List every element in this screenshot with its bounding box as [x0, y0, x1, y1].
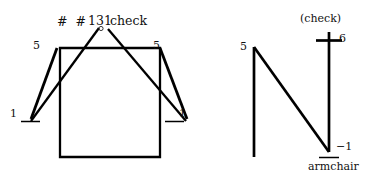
square-outline — [60, 48, 160, 157]
figure-root: # # 131 check 5 5 1 1 (check) 6 5 −1 arm… — [0, 0, 367, 183]
label-131: 131 — [88, 15, 112, 28]
label-five-right: 5 — [153, 40, 160, 51]
label-hashes: # # — [57, 16, 88, 29]
label-check-left-diagram: check — [110, 15, 147, 28]
left-diagram-group — [21, 26, 187, 157]
label-one-left: 1 — [10, 108, 17, 119]
n-diagonal — [254, 47, 329, 152]
label-armchair: armchair — [308, 161, 359, 172]
right-diagram-group — [254, 32, 342, 158]
left-arm-inner — [31, 28, 99, 121]
label-minus-one: −1 — [336, 141, 352, 152]
label-six: 6 — [339, 33, 346, 44]
label-one-right: 1 — [179, 108, 186, 119]
label-five-left: 5 — [33, 40, 40, 51]
right-arm-inner — [108, 29, 186, 121]
label-check-right-diagram: (check) — [300, 13, 341, 24]
diagram-canvas — [0, 0, 367, 183]
left-arm-outer — [31, 48, 57, 119]
label-five-n-shape: 5 — [240, 41, 247, 52]
